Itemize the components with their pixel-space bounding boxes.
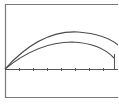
upper-trajectory	[5, 32, 118, 69]
lower-trajectory	[5, 42, 114, 69]
diagram-frame	[6, 5, 119, 98]
trajectory-diagram	[0, 0, 118, 105]
